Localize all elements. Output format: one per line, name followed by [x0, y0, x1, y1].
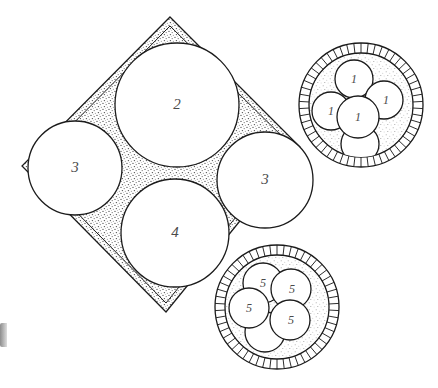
tray-circle-3-left-label: 3 — [70, 159, 79, 175]
left-edge-scroll-artifact — [0, 323, 7, 347]
tray-circle-2-label: 2 — [173, 96, 181, 112]
crimp-tooth — [329, 303, 339, 304]
diagram-canvas: 2 3 3 4 1 1 — [0, 0, 438, 388]
crimp-tooth — [215, 303, 225, 304]
dish-lower-item-2-label: 5 — [289, 282, 295, 296]
dish-upper-item-3-label: 1 — [355, 110, 361, 124]
tray-circle-4-label: 4 — [171, 224, 179, 240]
dish-lower-item-1-label: 5 — [260, 276, 266, 290]
dish-lower-item-4-label: 5 — [288, 313, 294, 327]
crimp-tooth — [413, 101, 423, 102]
crimped-dish-lower[interactable]: 5 5 5 5 — [215, 245, 339, 369]
dish-lower-item-3-label: 5 — [246, 301, 252, 315]
crimped-dish-upper[interactable]: 1 1 1 1 — [299, 43, 423, 167]
dish-upper-item-4-label: 1 — [383, 93, 389, 107]
crimp-tooth — [413, 108, 423, 109]
crimp-tooth — [299, 108, 309, 109]
dish-upper-item-1-label: 1 — [351, 72, 357, 86]
crimp-tooth — [215, 310, 225, 311]
dish-upper-item-2-label: 1 — [328, 104, 334, 118]
tray-circle-3-right-label: 3 — [260, 171, 269, 187]
crimp-tooth — [299, 101, 309, 102]
packing-diagram-svg: 2 3 3 4 1 1 — [0, 0, 438, 388]
crimp-tooth — [329, 310, 339, 311]
